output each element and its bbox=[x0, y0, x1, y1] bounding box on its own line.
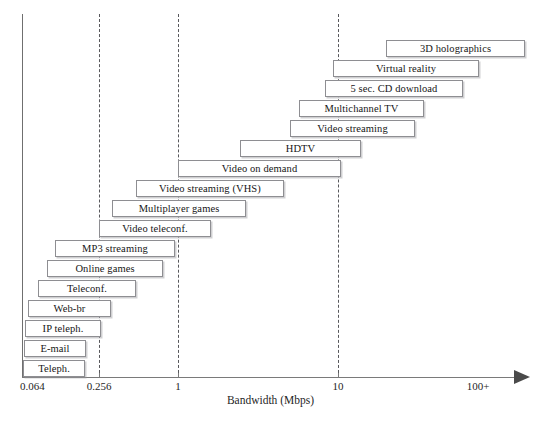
bar-multiplayer-games: Multiplayer games bbox=[112, 200, 246, 217]
bar-label: Web-br bbox=[54, 303, 86, 314]
bar-label: IP teleph. bbox=[43, 323, 84, 334]
bar-label: MP3 streaming bbox=[82, 243, 148, 254]
tick-mark-0256 bbox=[99, 373, 100, 378]
x-tick-label-100plus: 100+ bbox=[467, 380, 490, 393]
bar-5-sec-cd-download: 5 sec. CD download bbox=[325, 80, 463, 97]
bar-label: Virtual reality bbox=[376, 63, 436, 74]
bar-teleconf: Teleconf. bbox=[38, 280, 136, 297]
tick-mark-10 bbox=[338, 373, 339, 378]
bar-label: Teleconf. bbox=[67, 283, 107, 294]
x-tick-label-10: 10 bbox=[333, 380, 344, 393]
bar-label: HDTV bbox=[286, 143, 316, 154]
bar-video-on-demand: Video on demand bbox=[178, 160, 341, 177]
bar-label: Teleph. bbox=[38, 363, 70, 374]
bar-label: Multiplayer games bbox=[139, 203, 220, 214]
bar-label: Video streaming bbox=[317, 123, 388, 134]
bar-video-streaming-vhs: Video streaming (VHS) bbox=[136, 180, 284, 197]
bar-hdtv: HDTV bbox=[240, 140, 361, 157]
bar-mp3-streaming: MP3 streaming bbox=[55, 240, 175, 257]
tick-mark-1 bbox=[178, 373, 179, 378]
bar-online-games: Online games bbox=[47, 260, 163, 277]
bar-virtual-reality: Virtual reality bbox=[333, 60, 479, 77]
bar-label: 5 sec. CD download bbox=[351, 83, 438, 94]
bandwidth-requirements-chart: 3D holographics Virtual reality 5 sec. C… bbox=[0, 0, 541, 423]
x-axis-title: Bandwidth (Mbps) bbox=[0, 394, 541, 406]
bar-label: Video streaming (VHS) bbox=[159, 183, 261, 194]
bar-video-streaming: Video streaming bbox=[290, 120, 415, 137]
bar-label: Online games bbox=[75, 263, 134, 274]
bar-ip-teleph: IP teleph. bbox=[25, 320, 101, 337]
bar-label: Video on demand bbox=[222, 163, 298, 174]
bar-3d-holographics: 3D holographics bbox=[386, 40, 525, 57]
x-axis-arrow-icon bbox=[514, 370, 530, 384]
bar-label: Video teleconf. bbox=[122, 223, 188, 234]
y-axis-line bbox=[22, 14, 23, 378]
caption-remnant bbox=[6, 408, 8, 417]
x-axis-line bbox=[22, 377, 520, 378]
bar-label: Multichannel TV bbox=[325, 103, 399, 114]
bar-label: E-mail bbox=[40, 343, 69, 354]
x-tick-label-0256: 0.256 bbox=[87, 380, 112, 393]
bar-multichannel-tv: Multichannel TV bbox=[299, 100, 424, 117]
x-tick-label-1: 1 bbox=[175, 380, 181, 393]
bar-video-teleconf: Video teleconf. bbox=[99, 220, 211, 237]
bar-label: 3D holographics bbox=[420, 43, 491, 54]
x-tick-label-0064: 0.064 bbox=[20, 380, 45, 393]
bar-web-br: Web-br bbox=[28, 300, 111, 317]
bar-teleph: Teleph. bbox=[23, 360, 85, 377]
bar-e-mail: E-mail bbox=[24, 340, 86, 357]
